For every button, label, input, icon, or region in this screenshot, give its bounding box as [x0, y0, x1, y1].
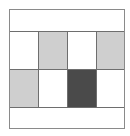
- cell-r1-c3: [68, 32, 97, 70]
- bottom-band: [10, 107, 124, 128]
- grid-frame: [9, 9, 125, 129]
- top-band: [10, 10, 124, 32]
- cell-r2-c1: [10, 70, 39, 109]
- cell-r1-c4: [97, 32, 124, 70]
- cell-r1-c2: [39, 32, 68, 70]
- cell-r2-c2: [39, 70, 68, 109]
- cell-grid: [10, 32, 124, 109]
- cell-r1-c1: [10, 32, 39, 70]
- cell-r2-c3: [68, 70, 97, 109]
- cell-r2-c4: [97, 70, 124, 109]
